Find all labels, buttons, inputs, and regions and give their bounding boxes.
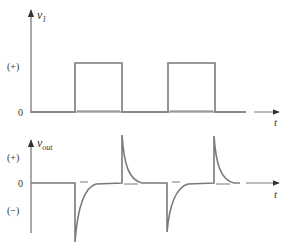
bottom-tick-plus: (+) bbox=[7, 152, 19, 164]
bottom-tick-minus: (−) bbox=[7, 205, 19, 217]
top-x-axis-label: t bbox=[274, 116, 278, 128]
top-plot: v1 (+) 0 t bbox=[7, 8, 279, 128]
square-wave-v1 bbox=[31, 63, 246, 112]
top-y-axis-label: v1 bbox=[37, 8, 46, 24]
bottom-tick-zero: 0 bbox=[18, 178, 23, 189]
bottom-plot: vout (+) 0 (−) t bbox=[7, 135, 279, 242]
bottom-y-axis-label: vout bbox=[37, 136, 53, 152]
waveform-diagram: v1 (+) 0 t vout (+) 0 (−) t bbox=[0, 0, 293, 247]
top-tick-plus: (+) bbox=[7, 61, 19, 73]
top-tick-zero: 0 bbox=[18, 107, 23, 118]
output-waveform bbox=[31, 135, 240, 242]
bottom-x-axis-label: t bbox=[274, 188, 278, 200]
